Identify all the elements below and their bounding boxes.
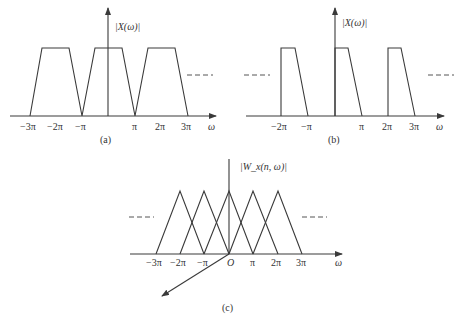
tick-label: −3π — [20, 121, 36, 132]
triangle-window — [156, 191, 204, 254]
tick-label: π — [250, 257, 255, 268]
x-axis-label: ω — [335, 257, 342, 268]
y-axis-label: |X(ω)| — [115, 21, 140, 33]
tick-label: −π — [75, 121, 86, 132]
tick-label: −2π — [271, 121, 287, 132]
caption: (c) — [222, 302, 233, 314]
tick-label: π — [359, 121, 364, 132]
tick-label: 3π — [296, 257, 306, 268]
tick-label: 2π — [271, 257, 281, 268]
tick-label: 3π — [181, 121, 191, 132]
tick-label: −π — [197, 257, 208, 268]
tick-label: 2π — [155, 121, 165, 132]
caption: (a) — [100, 134, 111, 146]
panel-c: |W_x(n, ω)| ω O −3π −2π −π π 2π 3π (c) — [129, 159, 342, 314]
y-axis-label: |W_x(n, ω)| — [240, 161, 287, 173]
caption: (b) — [328, 134, 340, 146]
triangle-window — [229, 191, 278, 254]
tick-label: −2π — [170, 257, 186, 268]
x-axis-label: ω — [436, 121, 443, 132]
triangle-window — [180, 191, 229, 254]
spectrum-band — [335, 48, 362, 116]
tick-label: −π — [301, 121, 312, 132]
tick-label: −3π — [146, 257, 162, 268]
y-axis-label: |X(ω)| — [342, 17, 367, 29]
panel-b: |X(ω)| ω −2π −π π 2π 3π (b) — [244, 8, 454, 146]
spectrum-band — [388, 48, 415, 116]
origin-label: O — [227, 257, 234, 268]
figure: |X(ω)| ω −3π −2π −π π 2π 3π (a) |X(ω)| ω… — [0, 0, 461, 321]
x-axis-label: ω — [208, 121, 215, 132]
tick-label: −2π — [47, 121, 63, 132]
tick-label: 3π — [409, 121, 419, 132]
panel-a: |X(ω)| ω −3π −2π −π π 2π 3π (a) — [10, 8, 216, 146]
triangle-window — [253, 191, 302, 254]
spectrum-curve — [30, 48, 188, 116]
tick-label: π — [132, 121, 137, 132]
spectrum-band — [281, 48, 308, 116]
tick-label: 2π — [382, 121, 392, 132]
